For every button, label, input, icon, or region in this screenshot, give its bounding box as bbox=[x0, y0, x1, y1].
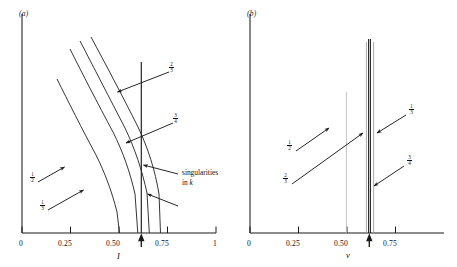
panel-a-axis-label: I bbox=[117, 251, 120, 261]
panel-a-tick-1: 1 bbox=[213, 239, 217, 248]
leader-b-3-4 bbox=[374, 166, 404, 186]
panel-a-tick-0: 0 bbox=[19, 239, 23, 248]
figure-root: (a) bbox=[0, 0, 457, 267]
fraction-label-1-3: 1 3 bbox=[38, 200, 47, 211]
leader-singularities-lower bbox=[148, 194, 179, 206]
leader-b-1-2 bbox=[296, 128, 329, 151]
leader-1-2 bbox=[38, 167, 65, 182]
panel-a-tick-050: 0.50 bbox=[106, 239, 120, 248]
panel-a-plot bbox=[0, 0, 229, 267]
leader-b-1-3 bbox=[377, 115, 406, 133]
panel-b-axis-label: ν bbox=[346, 250, 350, 260]
fraction-label-b-1-3: 1 3 bbox=[407, 104, 416, 115]
fraction-label-b-1-2: 1 2 bbox=[285, 140, 294, 151]
panel-b-tick-0: 0 bbox=[247, 239, 251, 248]
panel-a-tick-025: 0.25 bbox=[58, 239, 72, 248]
panel-b-axis-marker bbox=[366, 233, 372, 247]
curve-3-4 bbox=[91, 37, 161, 233]
panel-a-tick-075: 0.75 bbox=[155, 239, 169, 248]
curve-1-3 bbox=[57, 79, 120, 233]
leader-2-3 bbox=[118, 72, 170, 92]
panel-a-axis-marker bbox=[138, 233, 144, 247]
panel-b-plot bbox=[228, 0, 457, 267]
fraction-label-b-2-3: 2 3 bbox=[281, 173, 290, 184]
annotation-line-1: singularities bbox=[182, 168, 218, 177]
annotation-line-2: in k bbox=[182, 178, 193, 187]
panel-b-tick-050: 0.50 bbox=[334, 239, 348, 248]
fraction-label-2-3: 2 3 bbox=[167, 62, 176, 73]
leader-1-3 bbox=[48, 190, 84, 210]
leader-3-4 bbox=[126, 123, 173, 143]
panel-b-tick-025: 0.25 bbox=[286, 239, 300, 248]
fraction-label-b-3-4: 3 4 bbox=[405, 155, 414, 166]
panel-b: (b) bbox=[228, 0, 457, 267]
annotation-singularities: singularities in k bbox=[182, 168, 218, 187]
fraction-label-1-2: 1 2 bbox=[28, 172, 37, 183]
panel-b-spikes bbox=[346, 39, 373, 233]
panel-a: (a) bbox=[0, 0, 229, 267]
panel-b-tick-075: 0.75 bbox=[383, 239, 397, 248]
leader-singularities-upper bbox=[144, 165, 179, 174]
curve-1-2 bbox=[70, 49, 138, 233]
leader-b-2-3 bbox=[292, 133, 363, 184]
fraction-label-3-4: 3 4 bbox=[171, 113, 180, 124]
